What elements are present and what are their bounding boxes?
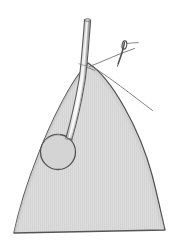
tube-lumen bbox=[85, 19, 91, 22]
figure-canvas: Line drawing of a pointed dome-shaped ti… bbox=[0, 0, 180, 250]
surgical-illustration bbox=[0, 0, 180, 250]
